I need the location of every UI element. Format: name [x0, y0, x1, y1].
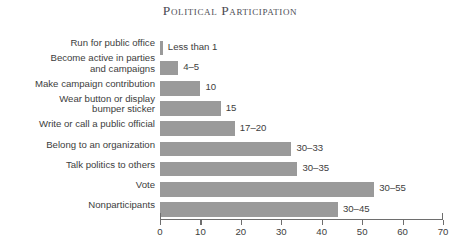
x-axis-tick	[362, 220, 363, 225]
bar-value-label: 30–55	[379, 180, 406, 196]
category-label: Wear button or display bumper sticker	[0, 94, 155, 116]
bar-value-label: 17–20	[240, 120, 267, 136]
category-axis-labels: Run for public office Become active in p…	[0, 38, 157, 220]
x-axis-right-cap	[442, 213, 443, 220]
bar-value-label: 15	[226, 100, 237, 116]
bar	[160, 61, 178, 76]
bar-value-label: 30–35	[302, 160, 329, 176]
x-axis-tick-label: 10	[185, 226, 215, 237]
category-label: Run for public office	[0, 38, 155, 49]
bar-value-label: 30–45	[343, 201, 370, 217]
x-axis-tick	[200, 220, 201, 225]
bar	[160, 182, 374, 197]
category-label: Write or call a public official	[0, 119, 155, 130]
bar	[160, 41, 163, 56]
x-axis-left-cap	[160, 213, 161, 220]
bar-value-label: Less than 1	[168, 39, 218, 55]
x-axis-tick	[281, 220, 282, 225]
chart-title: Political Participation	[0, 3, 460, 19]
x-axis-tick-label: 70	[428, 226, 458, 237]
x-axis-tick-label: 0	[145, 226, 175, 237]
x-axis-line	[160, 219, 443, 220]
x-axis-tick	[403, 220, 404, 225]
bar	[160, 142, 291, 157]
category-label: Talk politics to others	[0, 160, 155, 171]
x-axis-tick-label: 20	[226, 226, 256, 237]
x-axis-tick	[160, 220, 161, 225]
bar-value-label: 30–33	[296, 140, 323, 156]
category-label: Nonparticipants	[0, 200, 155, 211]
x-axis-tick-label: 40	[307, 226, 337, 237]
plot-area: Less than 1 4–5 10 15 17–20 30–33 30–35	[160, 38, 443, 220]
category-label: Become active in parties and campaigns	[0, 53, 155, 75]
bar-chart: Political Participation Run for public o…	[0, 0, 460, 240]
x-axis-tick-label: 30	[266, 226, 296, 237]
bar-value-label: 10	[205, 79, 216, 95]
category-label: Make campaign contribution	[0, 79, 155, 90]
x-axis-tick	[443, 220, 444, 225]
bar	[160, 162, 297, 177]
x-axis-tick	[322, 220, 323, 225]
bar	[160, 121, 235, 136]
bar-value-label: 4–5	[183, 59, 199, 75]
bar	[160, 101, 221, 116]
bar	[160, 81, 200, 96]
category-label: Vote	[0, 180, 155, 191]
bar	[160, 202, 338, 217]
x-axis-tick-label: 60	[388, 226, 418, 237]
x-axis-tick-label: 50	[347, 226, 377, 237]
category-label: Belong to an organization	[0, 140, 155, 151]
x-axis-tick	[241, 220, 242, 225]
